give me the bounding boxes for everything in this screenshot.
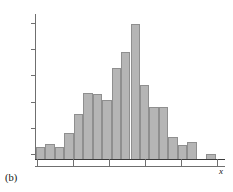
histogram-bar [149,107,158,159]
histogram-bar [36,147,45,159]
x-axis-tick [181,159,182,166]
plot-area [35,14,225,160]
histogram-bar [45,144,54,159]
x-axis-tick [145,159,146,166]
x-axis-label: x [219,166,223,176]
histogram-bar [178,145,187,160]
x-axis-rail [35,166,225,167]
histogram-bars [36,14,225,159]
histogram-figure: Relative frequency x (b) [0,0,233,192]
histogram-bar [93,94,102,159]
histogram-bar [168,137,177,159]
histogram-bar [83,93,92,159]
histogram-bar [121,52,130,159]
histogram-bar [159,107,168,159]
histogram-bar [112,68,121,159]
x-axis-baseline [35,159,225,160]
histogram-bar [140,85,149,159]
panel-label: (b) [5,172,17,183]
y-axis-label: Relative frequency [8,0,22,30]
x-axis-tick [217,159,218,166]
x-axis-tick [109,159,110,166]
x-axis-tick [73,159,74,166]
histogram-bar [102,100,111,159]
histogram-bar [64,133,73,159]
histogram-bar [187,142,196,159]
histogram-bar [55,147,64,159]
histogram-bar [131,24,140,159]
x-axis-tick [37,159,38,166]
histogram-bar [74,114,83,159]
